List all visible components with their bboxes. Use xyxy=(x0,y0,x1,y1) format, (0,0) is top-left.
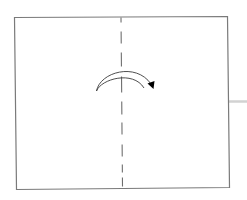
origami-diagram xyxy=(0,0,247,200)
